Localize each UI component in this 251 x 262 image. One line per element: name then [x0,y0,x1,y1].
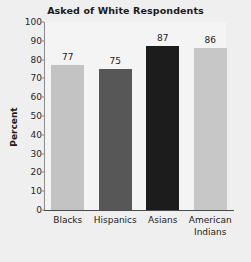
y-axis-ticks: 0102030405060708090100 [12,0,42,262]
x-axis-line [44,210,234,211]
y-tick-label: 100 [16,17,42,27]
bar-american-indians [194,48,227,210]
bar-blacks [51,65,84,210]
y-tick-label: 30 [16,149,42,159]
bar-value-label: 75 [110,56,121,66]
x-tick-label: Asians [148,214,177,226]
x-tick-label: American Indians [189,214,232,238]
y-tick-label: 20 [16,167,42,177]
bar-value-label: 86 [205,35,216,45]
bars-group: 77758786 [44,22,234,210]
x-tick-label: Hispanics [94,214,137,226]
y-tick-label: 10 [16,186,42,196]
y-tick-mark [41,191,44,192]
bar-value-label: 77 [62,52,73,62]
bar-asians [146,46,179,210]
y-tick-mark [41,40,44,41]
y-tick-mark [41,116,44,117]
y-tick-label: 0 [16,205,42,215]
y-tick-mark [41,172,44,173]
y-tick-mark [41,153,44,154]
bar-value-label: 87 [157,33,168,43]
x-tick-label: Blacks [53,214,82,226]
y-tick-label: 50 [16,111,42,121]
bar-chart-figure: Asked of White Respondents Percent 01020… [0,0,251,262]
y-tick-mark [41,134,44,135]
y-tick-mark [41,22,44,23]
y-tick-mark [41,97,44,98]
y-tick-label: 80 [16,55,42,65]
y-tick-mark [41,59,44,60]
y-tick-label: 60 [16,92,42,102]
bar-hispanics [99,69,132,210]
y-tick-label: 90 [16,36,42,46]
y-tick-label: 40 [16,130,42,140]
y-tick-mark [41,78,44,79]
y-tick-mark [41,210,44,211]
y-tick-label: 70 [16,73,42,83]
